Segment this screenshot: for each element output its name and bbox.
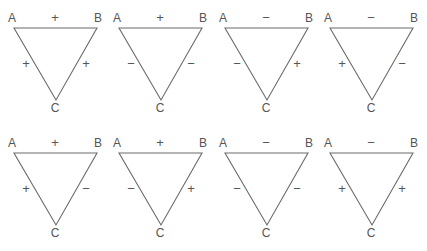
edge-sign-ab: − <box>367 135 375 150</box>
vertex-label-b: B <box>199 136 207 150</box>
signed-triangle: ABC−++ <box>324 135 418 240</box>
edge-sign-ab: − <box>262 10 270 25</box>
signed-triangle: ABC−+− <box>324 10 418 115</box>
signed-triangles-diagram: ABC+++ABC+−−ABC−−+ABC−+−ABC++−ABC+−+ABC−… <box>0 0 427 251</box>
edge-sign-bc: + <box>398 181 406 196</box>
edge-sign-ac: + <box>338 181 346 196</box>
signed-triangle: ABC+++ <box>8 10 102 115</box>
vertex-label-c: C <box>51 226 60 240</box>
vertex-label-a: A <box>8 11 16 25</box>
edge-sign-bc: − <box>293 181 301 196</box>
vertex-label-b: B <box>94 136 102 150</box>
edge-sign-ab: + <box>156 135 164 150</box>
edge-sign-bc: − <box>187 56 195 71</box>
edge-sign-ac: − <box>127 56 135 71</box>
vertex-label-c: C <box>262 101 271 115</box>
vertex-label-a: A <box>324 136 332 150</box>
edge-sign-ac: + <box>22 181 30 196</box>
vertex-label-b: B <box>305 136 313 150</box>
edge-sign-ac: + <box>338 56 346 71</box>
edge-sign-ac: + <box>22 56 30 71</box>
vertex-label-a: A <box>219 136 227 150</box>
vertex-label-c: C <box>51 101 60 115</box>
edge-sign-ac: − <box>127 181 135 196</box>
vertex-label-a: A <box>8 136 16 150</box>
edge-sign-ab: + <box>51 135 59 150</box>
edge-sign-ac: − <box>233 56 241 71</box>
edge-sign-bc: + <box>293 56 301 71</box>
vertex-label-c: C <box>262 226 271 240</box>
signed-triangle: ABC+−− <box>113 10 207 115</box>
vertex-label-a: A <box>113 11 121 25</box>
edge-sign-ab: − <box>262 135 270 150</box>
vertex-label-c: C <box>156 101 165 115</box>
edge-sign-ab: + <box>51 10 59 25</box>
vertex-label-b: B <box>410 136 418 150</box>
edge-sign-bc: − <box>82 181 90 196</box>
edge-sign-bc: + <box>187 181 195 196</box>
signed-triangle: ABC−−+ <box>219 10 313 115</box>
vertex-label-b: B <box>410 11 418 25</box>
edge-sign-ab: + <box>156 10 164 25</box>
edge-sign-bc: − <box>398 56 406 71</box>
edge-sign-ab: − <box>367 10 375 25</box>
vertex-label-a: A <box>113 136 121 150</box>
vertex-label-b: B <box>305 11 313 25</box>
vertex-label-a: A <box>324 11 332 25</box>
vertex-label-c: C <box>367 226 376 240</box>
vertex-label-b: B <box>94 11 102 25</box>
signed-triangle: ABC+−+ <box>113 135 207 240</box>
signed-triangle: ABC++− <box>8 135 102 240</box>
vertex-label-c: C <box>156 226 165 240</box>
signed-triangle: ABC−−− <box>219 135 313 240</box>
edge-sign-bc: + <box>82 56 90 71</box>
vertex-label-a: A <box>219 11 227 25</box>
vertex-label-b: B <box>199 11 207 25</box>
edge-sign-ac: − <box>233 181 241 196</box>
vertex-label-c: C <box>367 101 376 115</box>
